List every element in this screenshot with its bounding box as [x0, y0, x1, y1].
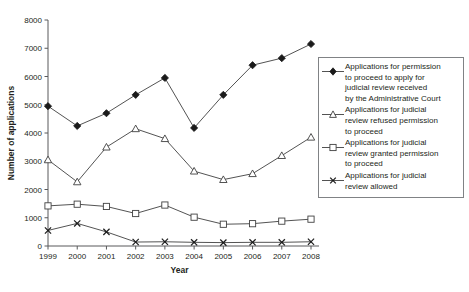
- series-4: [45, 220, 314, 245]
- open-square-icon: [321, 139, 345, 150]
- x-axis-tick-label: 2004: [185, 252, 203, 261]
- series-2: [44, 125, 314, 185]
- data-point[interactable]: [44, 103, 51, 110]
- x-marker-icon: [321, 172, 345, 183]
- y-axis-tick-label: 3000: [24, 157, 42, 166]
- data-point[interactable]: [220, 221, 226, 227]
- series-3: [45, 201, 314, 227]
- legend-item[interactable]: Applications for judicial review allowed: [321, 171, 460, 192]
- chart-figure: 010002000300040005000600070008000Number …: [0, 0, 469, 292]
- series-line: [48, 223, 311, 242]
- data-point[interactable]: [279, 218, 285, 224]
- data-point[interactable]: [133, 210, 139, 216]
- series-line: [48, 129, 311, 182]
- series-line: [48, 204, 311, 224]
- data-point[interactable]: [307, 40, 314, 47]
- data-point[interactable]: [162, 202, 168, 208]
- data-point[interactable]: [278, 55, 285, 62]
- x-axis-tick-label: 2008: [302, 252, 320, 261]
- x-axis-tick-label: 2005: [214, 252, 232, 261]
- x-axis-tick-label: 2002: [127, 252, 145, 261]
- x-axis-tick-label: 2003: [156, 252, 174, 261]
- data-point[interactable]: [249, 170, 256, 177]
- filled-diamond-icon: [321, 63, 345, 74]
- data-point[interactable]: [132, 125, 139, 132]
- data-point[interactable]: [103, 143, 110, 150]
- data-point[interactable]: [45, 203, 51, 209]
- legend-label: Applications for judicial review granted…: [345, 138, 438, 170]
- data-point[interactable]: [132, 91, 139, 98]
- x-axis-tick-label: 2007: [273, 252, 291, 261]
- legend-label: Applications for judicial review allowed: [345, 171, 426, 192]
- x-axis-tick-label: 2006: [244, 252, 262, 261]
- data-point[interactable]: [191, 214, 197, 220]
- data-point[interactable]: [161, 135, 168, 142]
- legend-label: Applications for permission to proceed t…: [345, 62, 441, 104]
- y-axis-tick-label: 7000: [24, 44, 42, 53]
- y-axis-tick-label: 6000: [24, 73, 42, 82]
- data-point[interactable]: [249, 221, 255, 227]
- y-axis-tick-label: 5000: [24, 101, 42, 110]
- y-axis-tick-label: 1000: [24, 214, 42, 223]
- series-1: [44, 40, 314, 131]
- series-line: [48, 44, 311, 128]
- data-point[interactable]: [278, 152, 285, 159]
- y-axis-tick-label: 8000: [24, 16, 42, 25]
- y-axis-tick-label: 4000: [24, 129, 42, 138]
- data-point[interactable]: [161, 74, 168, 81]
- legend-item[interactable]: Applications for judicial review granted…: [321, 138, 460, 170]
- open-triangle-icon: [321, 106, 345, 117]
- x-axis-title: Year: [171, 265, 190, 275]
- data-point[interactable]: [103, 203, 109, 209]
- data-point[interactable]: [74, 201, 80, 207]
- data-point[interactable]: [307, 134, 314, 141]
- legend-label: Applications for judicial review refused…: [345, 105, 438, 137]
- legend-item[interactable]: Applications for permission to proceed t…: [321, 62, 460, 104]
- x-axis-tick-label: 1999: [39, 252, 57, 261]
- data-point[interactable]: [44, 156, 51, 163]
- data-point[interactable]: [308, 216, 314, 222]
- data-point[interactable]: [103, 110, 110, 117]
- legend-item[interactable]: Applications for judicial review refused…: [321, 105, 460, 137]
- y-axis-title: Number of applications: [6, 86, 16, 181]
- y-axis-tick-label: 0: [38, 242, 43, 251]
- x-axis-tick-label: 2001: [98, 252, 116, 261]
- x-axis-tick-label: 2000: [68, 252, 86, 261]
- data-point[interactable]: [74, 122, 81, 129]
- chart-legend: Applications for permission to proceed t…: [318, 57, 464, 198]
- y-axis-tick-label: 2000: [24, 186, 42, 195]
